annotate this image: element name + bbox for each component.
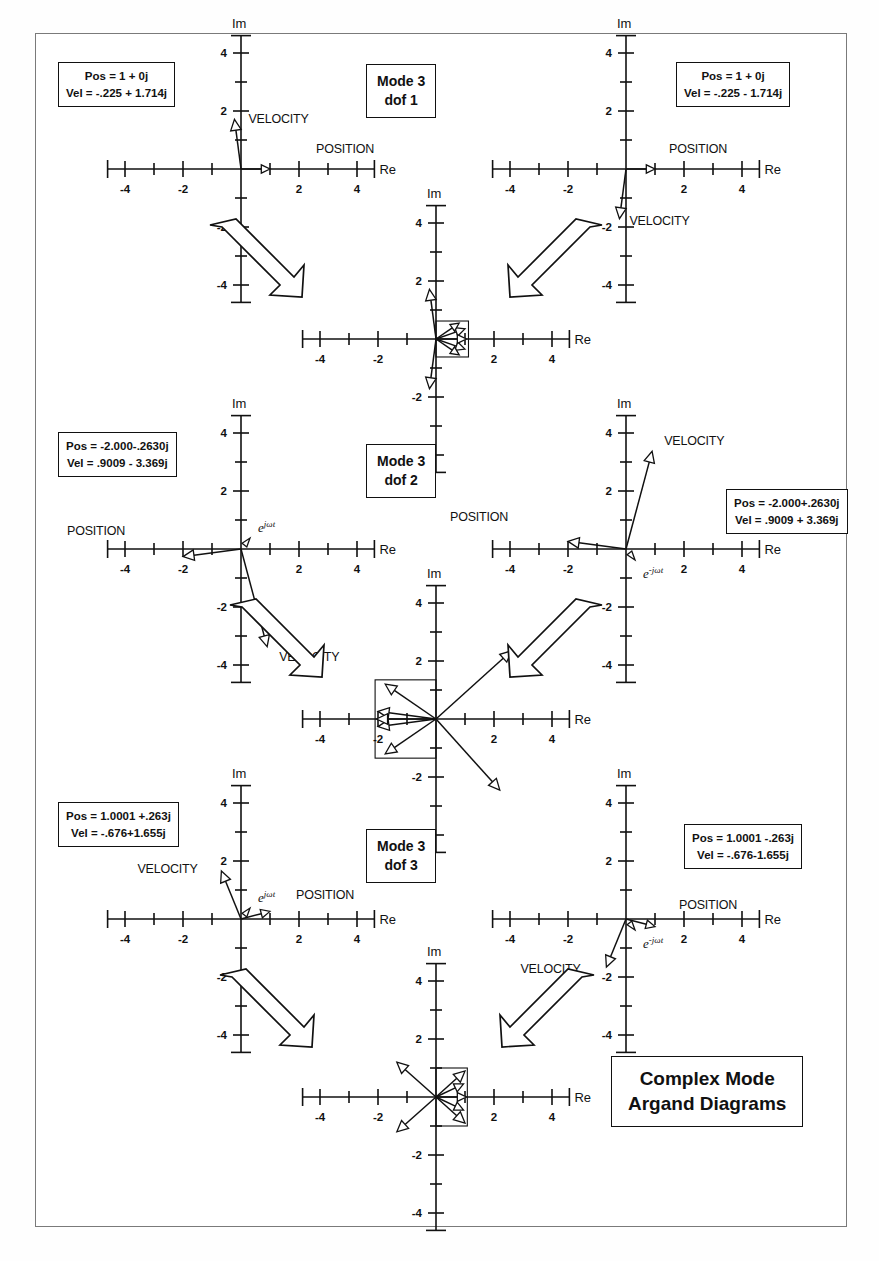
position-label: POSITION — [316, 142, 374, 156]
re-axis-label: Re — [764, 542, 781, 557]
velocity-vector — [606, 919, 626, 967]
position-value: Pos = 1 + 0j — [66, 68, 167, 85]
velocity-label: VELOCITY — [664, 434, 725, 448]
y-tick-label: -2 — [602, 971, 612, 983]
rotation-exponential-label: e-jωt — [643, 935, 664, 951]
title-line-2: Argand Diagrams — [628, 1092, 786, 1117]
position-label: POSITION — [669, 142, 727, 156]
x-tick-label: -4 — [315, 733, 326, 745]
x-tick-label: 4 — [739, 563, 746, 575]
position-value: Pos = 1.0001 +.263j — [66, 808, 171, 825]
x-tick-label: -4 — [120, 933, 131, 945]
im-axis-label: Im — [232, 766, 246, 781]
velocity-value: Vel = -.225 - 1.714j — [684, 85, 782, 102]
y-tick-label: 2 — [416, 655, 422, 667]
y-tick-label: 4 — [606, 797, 613, 809]
x-tick-label: -2 — [178, 933, 188, 945]
x-tick-label: -2 — [563, 183, 573, 195]
re-axis-label: Re — [574, 1090, 591, 1105]
velocity-value: Vel = .9009 - 3.369j — [66, 455, 169, 472]
flow-arrow-row1-right — [506, 219, 606, 299]
x-tick-label: 4 — [739, 183, 746, 195]
x-tick-label: -4 — [505, 933, 516, 945]
im-axis-label: Im — [427, 566, 441, 581]
x-tick-label: -2 — [178, 563, 188, 575]
x-tick-label: 4 — [739, 933, 746, 945]
x-tick-label: 4 — [354, 933, 361, 945]
dof-label: dof 1 — [377, 91, 425, 110]
x-tick-label: -2 — [178, 183, 188, 195]
y-tick-label: 4 — [221, 47, 228, 59]
position-vector — [626, 165, 655, 173]
y-tick-label: 4 — [416, 217, 423, 229]
position-label: POSITION — [450, 510, 508, 524]
x-tick-label: -4 — [315, 353, 326, 365]
y-tick-label: 2 — [221, 105, 227, 117]
dof-label: dof 3 — [377, 856, 425, 875]
im-axis-label: Im — [617, 16, 631, 31]
mode-box-row2: Mode 3dof 2 — [366, 444, 436, 498]
rotation-direction-ccw-icon — [242, 538, 250, 547]
y-tick-label: 4 — [221, 797, 228, 809]
x-tick-label: -2 — [373, 1111, 383, 1123]
x-tick-label: 4 — [549, 1111, 556, 1123]
y-tick-label: -2 — [412, 771, 422, 783]
x-tick-label: 2 — [296, 563, 302, 575]
y-tick-label: 4 — [606, 427, 613, 439]
im-axis-label: Im — [427, 186, 441, 201]
flow-arrow-row3-left — [216, 969, 316, 1049]
title-line-1: Complex Mode — [628, 1067, 786, 1092]
y-tick-label: 4 — [221, 427, 228, 439]
velocity-label: VELOCITY — [629, 214, 690, 228]
velocity-vector — [231, 119, 241, 169]
info-box-row3-left: Pos = 1.0001 +.263jVel = -.676+1.655j — [58, 802, 179, 847]
x-tick-label: -4 — [120, 563, 131, 575]
x-tick-label: 2 — [296, 933, 302, 945]
rotation-direction-cw-icon — [627, 921, 635, 930]
im-axis-label: Im — [427, 944, 441, 959]
y-tick-label: 2 — [221, 485, 227, 497]
velocity-label: VELOCITY — [248, 112, 309, 126]
resultant-vector-2 — [426, 339, 436, 389]
flow-arrow-row2-left — [226, 599, 326, 679]
position-label: POSITION — [679, 898, 737, 912]
x-tick-label: 4 — [354, 563, 361, 575]
rotation-direction-cw-icon — [627, 551, 635, 560]
x-tick-label: -2 — [563, 933, 573, 945]
rotation-exponential-label: ejωt — [258, 889, 276, 905]
im-axis-label: Im — [232, 396, 246, 411]
rotation-direction-ccw-icon — [242, 908, 250, 917]
x-tick-label: 2 — [681, 933, 687, 945]
info-box-row1-left: Pos = 1 + 0jVel = -.225 + 1.714j — [58, 62, 175, 107]
x-tick-label: 2 — [491, 733, 497, 745]
velocity-value: Vel = -.676+1.655j — [66, 825, 171, 842]
im-axis-label: Im — [617, 766, 631, 781]
x-tick-label: -4 — [120, 183, 131, 195]
y-tick-label: 4 — [606, 47, 613, 59]
x-tick-label: 2 — [491, 1111, 497, 1123]
title-box: Complex ModeArgand Diagrams — [611, 1056, 803, 1127]
x-tick-label: 4 — [549, 733, 556, 745]
resultant-vector-5 — [436, 651, 511, 719]
y-tick-label: 2 — [221, 855, 227, 867]
x-tick-label: 4 — [549, 353, 556, 365]
position-label: POSITION — [296, 888, 354, 902]
velocity-vector — [626, 451, 654, 549]
resultant-vector-7 — [436, 1093, 466, 1102]
rotation-exponential-label: e-jωt — [643, 565, 664, 581]
resultant-vector-1 — [426, 289, 436, 339]
position-value: Pos = 1.0001 -.263j — [692, 830, 794, 847]
flow-arrow-row1-left — [206, 219, 306, 299]
velocity-vector — [221, 871, 241, 919]
x-tick-label: -2 — [563, 563, 573, 575]
im-axis-label: Im — [232, 16, 246, 31]
velocity-value: Vel = .9009 + 3.369j — [734, 512, 840, 529]
flow-arrow-row3-right — [498, 969, 598, 1049]
x-tick-label: 2 — [296, 183, 302, 195]
info-box-row1-right: Pos = 1 + 0jVel = -.225 - 1.714j — [676, 62, 790, 107]
x-tick-label: 4 — [354, 183, 361, 195]
mode-label: Mode 3 — [377, 452, 425, 471]
position-label: POSITION — [67, 524, 125, 538]
x-tick-label: -4 — [505, 563, 516, 575]
flow-arrow-row2-right — [506, 599, 606, 679]
